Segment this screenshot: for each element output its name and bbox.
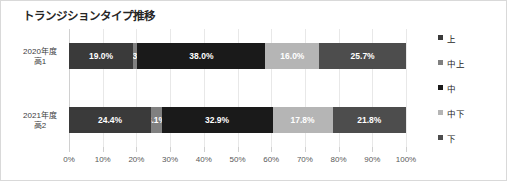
legend-swatch-icon	[438, 85, 443, 90]
bar-row[interactable]: 19.0%1.3%38.0%16.0%25.7%	[69, 43, 406, 69]
bar-segment[interactable]: 32.9%	[162, 107, 273, 133]
category-label-2020-line2: 高1	[15, 57, 65, 67]
legend-item[interactable]: 中上	[438, 50, 500, 75]
legend-item[interactable]: 下	[438, 125, 500, 150]
gridline	[406, 29, 407, 147]
bar-segment[interactable]: 17.8%	[273, 107, 333, 133]
x-axis-tick	[372, 147, 373, 152]
x-axis-tick-label: 80%	[331, 155, 347, 164]
bar-segment[interactable]: 21.8%	[333, 107, 406, 133]
x-axis-tick-label: 30%	[162, 155, 178, 164]
category-label-2021: 2021年度 高2	[15, 111, 65, 131]
x-axis-tick-label: 10%	[95, 155, 111, 164]
bar-segment-label: 16.0%	[280, 51, 304, 61]
x-axis-tick-label: 20%	[128, 155, 144, 164]
bar-segment[interactable]: 3.1%	[151, 107, 161, 133]
legend-swatch-icon	[438, 35, 443, 40]
x-axis-tick	[103, 147, 104, 152]
legend-label: 下	[447, 132, 456, 144]
x-axis-tick-label: 90%	[364, 155, 380, 164]
x-axis-tick	[406, 147, 407, 152]
bar-segment[interactable]: 16.0%	[265, 43, 319, 69]
category-label-2021-line1: 2021年度	[23, 111, 57, 120]
x-axis-tick-label: 60%	[263, 155, 279, 164]
bar-segment[interactable]: 24.4%	[69, 107, 151, 133]
legend-swatch-icon	[438, 110, 443, 115]
bar-segment-label: 38.0%	[189, 51, 213, 61]
legend-swatch-icon	[438, 135, 443, 140]
x-axis-tick-label: 100%	[396, 155, 416, 164]
bar-segment-label: 19.0%	[89, 51, 113, 61]
x-axis-tick	[136, 147, 137, 152]
x-axis-tick-label: 50%	[229, 155, 245, 164]
bar-segment[interactable]: 19.0%	[69, 43, 133, 69]
chart-legend: 上中上中中下下	[438, 25, 500, 150]
legend-label: 中下	[447, 107, 465, 119]
legend-item[interactable]: 中	[438, 75, 500, 100]
x-axis-tick	[69, 147, 70, 152]
x-axis-tick-label: 70%	[297, 155, 313, 164]
chart-container: トランジションタイプ推移 2020年度 高1 2021年度 高2 19.0%1.…	[0, 0, 507, 181]
bar-segment-label: 25.7%	[351, 51, 375, 61]
legend-label: 中上	[447, 57, 465, 69]
x-axis-tick	[204, 147, 205, 152]
x-axis-tick	[305, 147, 306, 152]
bar-segment-label: 3.1%	[151, 115, 161, 125]
bar-segment-label: 17.8%	[290, 115, 314, 125]
legend-item[interactable]: 中下	[438, 100, 500, 125]
category-label-2020: 2020年度 高1	[15, 47, 65, 67]
plot-area: 19.0%1.3%38.0%16.0%25.7% 24.4%3.1%32.9%1…	[69, 29, 406, 147]
x-axis-tick	[271, 147, 272, 152]
bar-segment-label: 21.8%	[357, 115, 381, 125]
x-axis-tick	[339, 147, 340, 152]
chart-title: トランジションタイプ推移	[23, 7, 155, 23]
x-axis: 0%10%20%30%40%50%60%70%80%90%100%	[69, 147, 406, 173]
bar-row[interactable]: 24.4%3.1%32.9%17.8%21.8%	[69, 107, 406, 133]
bar-segment-label: 24.4%	[98, 115, 122, 125]
legend-swatch-icon	[438, 60, 443, 65]
x-axis-tick-label: 40%	[196, 155, 212, 164]
legend-label: 中	[447, 82, 456, 94]
x-axis-tick-label: 0%	[63, 155, 75, 164]
legend-item[interactable]: 上	[438, 25, 500, 50]
bar-segment[interactable]: 38.0%	[137, 43, 265, 69]
bar-segment[interactable]: 25.7%	[319, 43, 406, 69]
category-label-2020-line1: 2020年度	[23, 47, 57, 56]
category-label-2021-line2: 高2	[15, 121, 65, 131]
bar-segment-label: 32.9%	[205, 115, 229, 125]
x-axis-tick	[170, 147, 171, 152]
legend-label: 上	[447, 32, 456, 44]
x-axis-tick	[238, 147, 239, 152]
